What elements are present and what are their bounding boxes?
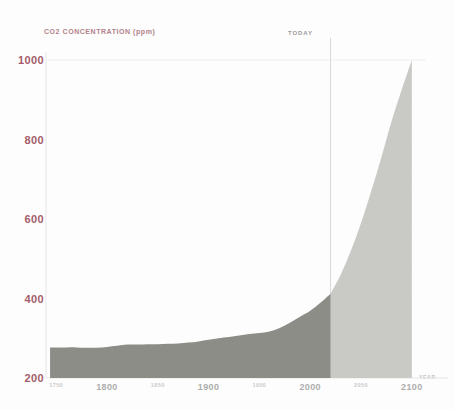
x-axis-tick-2000: 2000 xyxy=(299,382,321,392)
y-axis-tick-labels: 2004006008001000 xyxy=(0,0,44,410)
chart-plot-area xyxy=(0,0,455,410)
x-axis-tick-2050: 2050 xyxy=(354,382,368,388)
area-series-group xyxy=(50,60,412,378)
y-axis-tick-1000: 1000 xyxy=(8,54,44,66)
y-axis-tick-400: 400 xyxy=(8,293,44,305)
x-axis-tick-1850: 1850 xyxy=(151,382,165,388)
x-axis-tick-1750: 1750 xyxy=(49,382,63,388)
y-axis-tick-800: 800 xyxy=(8,134,44,146)
x-axis-tick-1900: 1900 xyxy=(198,382,220,392)
x-axis-tick-1950: 1950 xyxy=(252,382,266,388)
x-axis-tick-1800: 1800 xyxy=(96,382,118,392)
co2-concentration-chart: CO2 CONCENTRATION (ppm) TODAY YEAR 20040… xyxy=(0,0,455,410)
x-axis-tick-2100: 2100 xyxy=(401,382,423,392)
y-axis-tick-600: 600 xyxy=(8,213,44,225)
y-axis-tick-200: 200 xyxy=(8,372,44,384)
